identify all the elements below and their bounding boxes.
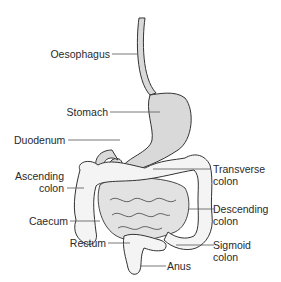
rectum-shape [123, 234, 166, 274]
label-descending-colon-2: colon [213, 215, 238, 227]
label-stomach: Stomach [40, 106, 108, 118]
oesophagus-shape [137, 18, 156, 95]
label-oesophagus: Oesophagus [40, 48, 110, 60]
label-anus: Anus [167, 260, 191, 272]
label-descending-colon-1: Descending [213, 203, 268, 215]
label-caecum: Caecum [10, 215, 68, 227]
small-intestine-shape [98, 178, 189, 241]
label-ascending-colon-2: colon [10, 182, 64, 194]
label-sigmoid-colon-1: Sigmoid [213, 239, 251, 251]
label-ascending-colon-1: Ascending [10, 170, 64, 182]
label-transverse-colon-2: colon [213, 175, 238, 187]
label-sigmoid-colon-2: colon [213, 251, 238, 263]
label-duodenum: Duodenum [14, 134, 65, 146]
label-rectum: Rectum [50, 237, 106, 249]
label-transverse-colon-1: Transverse [213, 163, 265, 175]
